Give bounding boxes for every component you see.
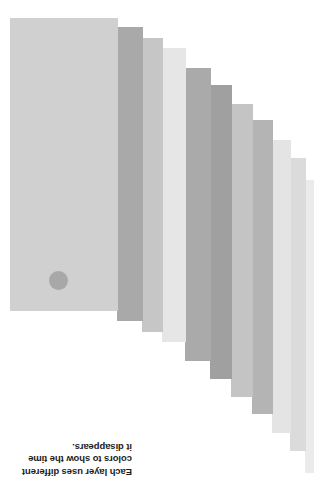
layer-marker-dot: [49, 271, 68, 290]
layer-9: [272, 140, 291, 433]
layer-2: [117, 27, 143, 321]
layer-5: [185, 68, 211, 361]
layer-7: [231, 104, 253, 397]
layer-1: [10, 18, 118, 311]
caption-text: Each layer uses different colors to show…: [12, 436, 132, 478]
layer-3: [142, 38, 163, 332]
layer-4: [162, 48, 186, 342]
layer-11: [305, 180, 314, 473]
layer-10: [290, 158, 306, 451]
layer-6: [210, 85, 232, 379]
layer-stack-illustration: Each layer uses different colors to show…: [0, 0, 314, 484]
layer-8: [252, 120, 273, 414]
